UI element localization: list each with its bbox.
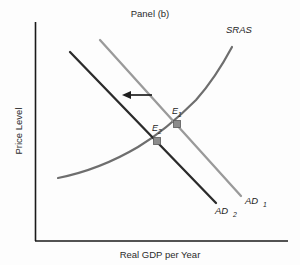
figure-panel-b: Panel (b) Real GDP per Year Price Level … — [0, 0, 300, 265]
sras-label: SRAS — [226, 24, 253, 35]
figure-background — [0, 0, 300, 265]
equilibrium-marker-e1 — [174, 121, 181, 128]
y-axis-label: Price Level — [13, 108, 24, 155]
ad1-label-base: AD — [244, 195, 258, 206]
ad1-label-subscript: 1 — [263, 201, 267, 208]
ad2-label-base: AD — [214, 205, 228, 216]
x-axis-label: Real GDP per Year — [120, 249, 201, 260]
e2-label-subscript: 2 — [157, 128, 162, 135]
panel-title: Panel (b) — [131, 8, 170, 19]
ad-as-diagram: Panel (b) Real GDP per Year Price Level … — [0, 0, 300, 265]
equilibrium-marker-e2 — [154, 138, 161, 145]
ad2-label-subscript: 2 — [232, 211, 237, 218]
e1-label-subscript: 1 — [178, 111, 182, 118]
